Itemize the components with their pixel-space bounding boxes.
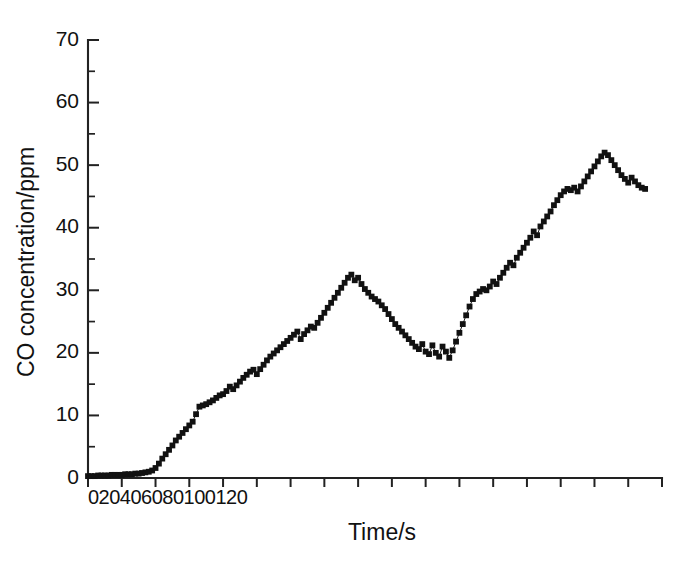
data-point-marker — [463, 312, 469, 318]
data-point-marker — [544, 214, 550, 220]
data-point-marker — [534, 232, 540, 238]
chart-svg: 010203040506070 020406080100120 Time/s C… — [0, 0, 695, 567]
data-point-marker — [548, 209, 554, 215]
data-point-marker — [416, 346, 422, 352]
data-point-marker — [430, 342, 436, 348]
data-point-marker — [588, 169, 594, 175]
data-point-marker — [450, 347, 456, 353]
y-axis-tick-label: 70 — [56, 27, 79, 50]
y-axis-tick-label: 50 — [56, 152, 79, 175]
data-point-marker — [294, 329, 300, 335]
data-point-marker — [497, 275, 503, 281]
data-point-marker — [298, 336, 304, 342]
y-axis-tick-label: 40 — [56, 214, 79, 237]
y-axis-tick-label: 10 — [56, 402, 79, 425]
data-point-marker — [494, 281, 500, 287]
data-point-marker — [342, 280, 348, 286]
y-axis-tick-label: 60 — [56, 89, 79, 112]
data-point-marker — [504, 265, 510, 271]
chart-figure: 010203040506070 020406080100120 Time/s C… — [0, 0, 695, 567]
data-point-marker — [446, 355, 452, 361]
data-point-marker — [538, 224, 544, 230]
data-point-marker — [554, 197, 560, 203]
data-point-marker — [575, 189, 581, 195]
data-point-marker — [608, 157, 614, 163]
data-point-marker — [190, 419, 196, 425]
y-axis-tick-label: 20 — [56, 339, 79, 362]
data-point-marker — [321, 310, 327, 316]
y-axis-title: CO concentration/ppm — [13, 147, 39, 377]
data-point-marker — [457, 330, 463, 336]
data-point-marker — [348, 272, 354, 278]
data-point-marker — [592, 163, 598, 169]
data-point-marker — [595, 158, 601, 164]
data-point-marker — [382, 306, 388, 312]
data-point-marker — [470, 296, 476, 302]
data-point-marker — [612, 162, 618, 168]
data-point-marker — [527, 235, 533, 241]
data-point-marker — [581, 179, 587, 185]
data-point-marker — [500, 270, 506, 276]
data-point-marker — [460, 321, 466, 327]
data-point-marker — [325, 305, 331, 311]
data-point-marker — [487, 284, 493, 290]
data-point-marker — [642, 186, 648, 192]
x-axis-tick-label-run: 020406080100120 — [88, 486, 248, 508]
data-point-marker — [386, 311, 392, 317]
data-point-marker — [315, 320, 321, 326]
data-point-marker — [419, 341, 425, 347]
data-point-marker — [443, 349, 449, 355]
data-point-marker — [625, 180, 631, 186]
data-point-marker — [551, 202, 557, 208]
data-point-marker — [521, 245, 527, 251]
data-point-marker — [328, 300, 334, 306]
data-point-marker — [311, 325, 317, 331]
data-point-marker — [467, 304, 473, 310]
data-point-marker — [389, 316, 395, 322]
data-point-marker — [615, 167, 621, 173]
data-point-marker — [359, 281, 365, 287]
data-point-marker — [541, 219, 547, 225]
data-point-marker — [453, 339, 459, 345]
data-point-marker — [193, 411, 199, 417]
data-point-marker — [585, 174, 591, 180]
y-axis-tick-label: 0 — [67, 465, 79, 488]
data-point-marker — [254, 371, 260, 377]
x-axis-title: Time/s — [348, 519, 416, 545]
data-point-marker — [517, 250, 523, 256]
data-point-marker — [156, 461, 162, 467]
data-point-marker — [170, 443, 176, 449]
data-point-marker — [511, 262, 517, 268]
data-point-marker — [335, 290, 341, 296]
data-point-marker — [578, 184, 584, 190]
data-point-marker — [436, 354, 442, 360]
data-point-marker — [514, 255, 520, 261]
data-point-marker — [524, 240, 530, 246]
data-point-marker — [440, 344, 446, 350]
data-point-marker — [338, 285, 344, 291]
data-point-marker — [605, 152, 611, 158]
data-point-marker — [426, 351, 432, 357]
data-point-marker — [318, 315, 324, 321]
data-point-marker — [355, 275, 361, 281]
y-axis-tick-label: 30 — [56, 277, 79, 300]
data-point-marker — [332, 295, 338, 301]
